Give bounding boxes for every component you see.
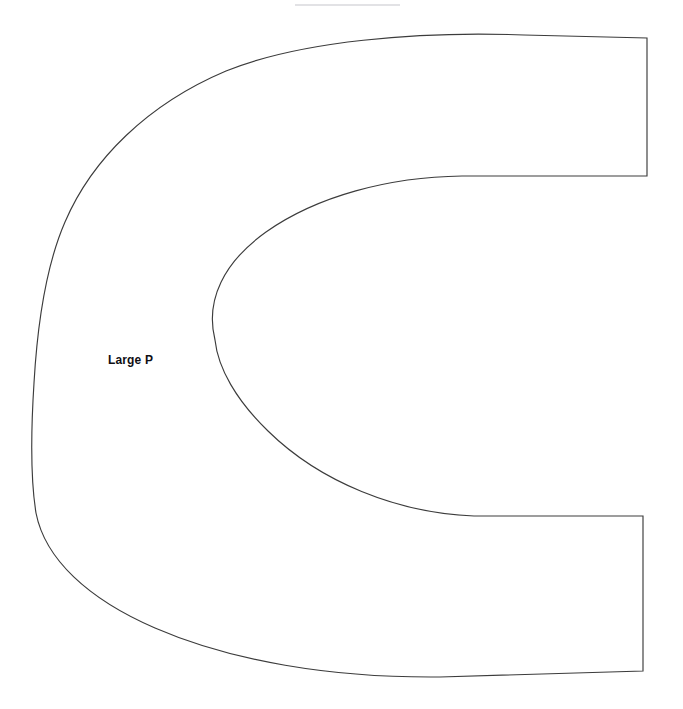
drawing-canvas: Large P (0, 0, 683, 709)
large-p-outline-svg (0, 0, 683, 709)
large-p-label: Large P (108, 353, 153, 367)
